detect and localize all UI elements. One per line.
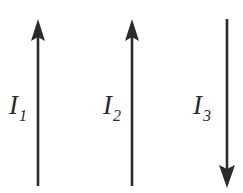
current-label-i1-subscript: 1 — [19, 107, 27, 124]
current-label-i2: I2 — [103, 92, 120, 119]
wire-1-arrow — [31, 19, 45, 186]
current-label-i2-symbol: I — [103, 90, 112, 120]
current-label-i1-symbol: I — [9, 90, 18, 120]
current-label-i3-symbol: I — [193, 90, 202, 120]
current-label-i2-subscript: 2 — [113, 107, 121, 124]
wire-3-arrow — [219, 19, 235, 188]
wire-2-arrow — [125, 19, 139, 186]
current-label-i3: I3 — [193, 92, 210, 119]
current-label-i1: I1 — [9, 92, 26, 119]
current-wires-diagram: I1 I2 I3 — [0, 0, 243, 193]
current-label-i3-subscript: 3 — [203, 107, 211, 124]
